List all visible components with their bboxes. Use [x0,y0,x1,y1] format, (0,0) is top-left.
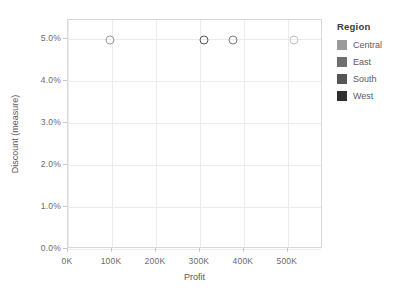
y-axis-title: Discount (measure) [8,19,22,248]
x-tick-mark [287,248,288,252]
y-tick-mark [63,164,67,165]
x-tick-mark [243,248,244,252]
gridline-vertical [200,20,201,247]
gridline-vertical [288,20,289,247]
y-tick-mark [63,38,67,39]
gridline-horizontal [68,123,321,124]
x-tick-mark [67,248,68,252]
data-point-marker[interactable] [290,35,299,44]
legend-swatch-icon [337,91,347,101]
x-tick-label: 100K [89,256,133,266]
gridline-vertical [68,20,69,247]
legend: Region CentralEastSouthWest [337,21,413,104]
x-tick-label: 400K [221,256,265,266]
legend-item-label: South [353,74,377,84]
legend-item[interactable]: East [337,53,413,70]
y-tick-label: 2.0% [21,159,61,169]
x-tick-mark [155,248,156,252]
legend-item[interactable]: South [337,70,413,87]
x-tick-label: 200K [133,256,177,266]
legend-item[interactable]: West [337,87,413,104]
y-tick-mark [63,248,67,249]
data-point-marker[interactable] [200,35,209,44]
legend-swatch-icon [337,40,347,50]
y-tick-mark [63,206,67,207]
y-tick-mark [63,80,67,81]
y-tick-mark [63,122,67,123]
x-tick-label: 500K [265,256,309,266]
data-point-marker[interactable] [228,35,237,44]
y-tick-label: 1.0% [21,201,61,211]
legend-item[interactable]: Central [337,36,413,53]
gridline-horizontal [68,165,321,166]
y-tick-label: 5.0% [21,33,61,43]
legend-item-label: Central [353,40,382,50]
y-tick-label: 0.0% [21,243,61,253]
gridline-horizontal [68,249,321,250]
legend-item-label: West [353,91,373,101]
x-tick-mark [111,248,112,252]
x-tick-label: 300K [177,256,221,266]
legend-item-list: CentralEastSouthWest [337,36,413,104]
data-point-marker[interactable] [105,35,114,44]
gridline-horizontal [68,81,321,82]
y-tick-label: 3.0% [21,117,61,127]
x-axis-title: Profit [67,272,322,282]
x-tick-label: 0K [45,256,89,266]
legend-swatch-icon [337,57,347,67]
gridline-vertical [112,20,113,247]
x-tick-mark [199,248,200,252]
scatter-chart: 0K100K200K300K400K500K 0.0%1.0%2.0%3.0%4… [0,0,416,302]
gridline-vertical [156,20,157,247]
gridline-horizontal [68,207,321,208]
legend-item-label: East [353,57,371,67]
gridline-vertical [244,20,245,247]
y-axis-title-text: Discount (measure) [10,94,20,173]
y-tick-label: 4.0% [21,75,61,85]
legend-title: Region [337,21,413,32]
legend-swatch-icon [337,74,347,84]
plot-area [67,19,322,248]
